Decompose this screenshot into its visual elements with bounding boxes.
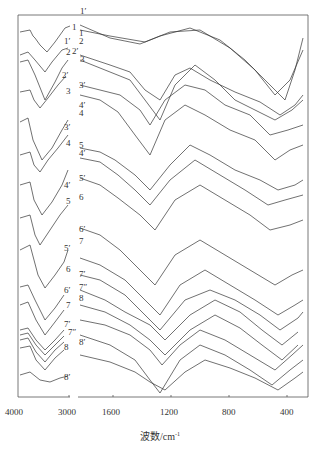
- curve-label: 8′: [79, 337, 86, 347]
- curve-label: 6′: [64, 285, 71, 295]
- x-axis-label-text: 波数/cm: [140, 431, 175, 442]
- x-tick-label: 1600: [102, 407, 121, 417]
- left-panel-labels: 1 1′ 2 2′ 3 3′ 4 4′ 5 5′ 6 6′ 7 7′ 7″ 8 …: [62, 22, 77, 382]
- curve-label: 4′: [79, 148, 86, 158]
- curve-label: 4: [79, 108, 84, 118]
- curve-label: 2′: [62, 70, 69, 80]
- x-tick-label: 1200: [160, 407, 179, 417]
- curve-label: 7″: [79, 282, 88, 292]
- curve-label: 1′: [64, 36, 71, 46]
- x-tick-label: 800: [222, 407, 236, 417]
- curve-label: 8′: [64, 372, 71, 382]
- x-tick-label: 400: [280, 407, 294, 417]
- curve-label: 1′: [80, 6, 87, 16]
- curve-label: 7: [66, 300, 71, 310]
- x-axis-ticks: 4000 3000 1600 1200 800 400: [5, 395, 294, 417]
- curve-label: 6: [66, 264, 71, 274]
- curve-label: 6: [79, 192, 84, 202]
- curve-label: 3: [66, 86, 71, 96]
- curve-label: 1: [72, 22, 77, 32]
- curve-label: 7: [79, 236, 84, 246]
- x-axis-label-sup: -1: [175, 431, 180, 437]
- curve-label: 4: [66, 138, 71, 148]
- curve-label: 2: [79, 36, 84, 46]
- curve-label: 8: [64, 342, 69, 352]
- x-tick-label: 4000: [5, 407, 24, 417]
- curve-label: 7′: [79, 269, 86, 279]
- curve-label: 3′: [79, 80, 86, 90]
- curve-label: 7″: [68, 327, 77, 337]
- curve-label: 5′: [79, 173, 86, 183]
- ir-spectra-chart: 1 1′ 2 2′ 3 3′ 4 4′ 5 5′ 6 6′ 7 7′ 7″ 8 …: [0, 0, 320, 459]
- x-axis-label: 波数/cm-1: [0, 428, 320, 443]
- curve-label: 5′: [64, 243, 71, 253]
- right-panel-labels: 1′ 1 2 2′ 3 3′ 4′ 4 5 4′ 5′ 6 6′ 7 7′ 7″…: [72, 6, 88, 347]
- curve-label: 5: [66, 196, 71, 206]
- curve-label: 8: [79, 293, 84, 303]
- curve-label: 3: [80, 54, 85, 64]
- curve-label: 3′: [64, 122, 71, 132]
- curve-label: 4′: [64, 180, 71, 190]
- x-tick-label: 3000: [58, 407, 77, 417]
- curve-label: 2: [66, 47, 71, 57]
- curve-label: 2′: [72, 46, 79, 56]
- curve-label: 6′: [79, 224, 86, 234]
- right-panel-curves: [80, 25, 303, 393]
